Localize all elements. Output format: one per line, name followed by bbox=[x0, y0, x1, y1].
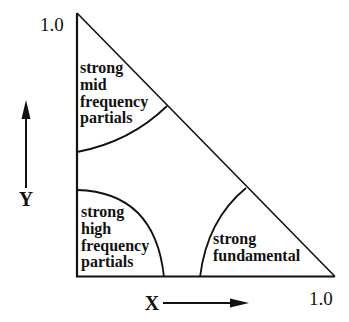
y-arrowhead-icon bbox=[22, 100, 31, 119]
y-max-label: 1.0 bbox=[40, 14, 64, 35]
region-mid-line-1: strong bbox=[80, 59, 123, 77]
region-mid-line-2: mid bbox=[80, 76, 107, 93]
region-fundamental-label: strong fundamental bbox=[213, 230, 301, 264]
x-direction-arrow: X bbox=[145, 292, 249, 314]
region-high-line-2: high bbox=[81, 220, 111, 238]
y-direction-arrow: Y bbox=[19, 100, 34, 210]
region-mid-label: strong mid frequency partials bbox=[80, 59, 148, 127]
x-arrowhead-icon bbox=[230, 299, 249, 308]
x-axis-label: X bbox=[145, 292, 160, 314]
y-axis-label: Y bbox=[19, 188, 34, 210]
x-max-label: 1.0 bbox=[309, 288, 333, 309]
region-high-line-4: partials bbox=[81, 253, 133, 271]
timbre-triangle-diagram: strong mid frequency partials strong hig… bbox=[0, 0, 349, 322]
region-fundamental-line-2: fundamental bbox=[213, 247, 301, 264]
region-fundamental-line-1: strong bbox=[213, 230, 256, 248]
region-high-line-1: strong bbox=[81, 203, 124, 221]
region-mid-line-4: partials bbox=[80, 109, 132, 127]
